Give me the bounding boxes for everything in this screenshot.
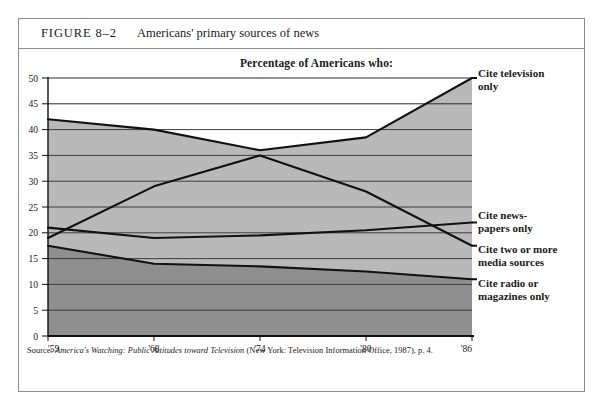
svg-text:'86: '86 [461,343,473,354]
svg-text:25: 25 [28,202,38,213]
svg-text:5: 5 [33,305,38,316]
source-suffix: (New York: Television Information Office… [244,346,433,355]
source-title: America's Watching: Public Attitudes tow… [55,346,244,355]
chart-plot-area: 05101520253035404550'59'68'74'80'86 Cite… [19,19,586,393]
source-prefix: Source: [27,346,55,355]
svg-text:30: 30 [28,176,38,187]
figure-frame: FIGURE 8–2 Americans' primary sources of… [18,18,585,392]
svg-text:10: 10 [28,279,38,290]
svg-text:45: 45 [28,98,38,109]
svg-text:15: 15 [28,253,38,264]
series-label-multiple: Cite two or more media sources [478,243,590,269]
svg-text:20: 20 [28,227,38,238]
source-note: Source: America's Watching: Public Attit… [27,346,433,355]
svg-text:0: 0 [33,331,38,342]
svg-text:50: 50 [28,73,38,84]
series-label-television: Cite television only [478,67,590,93]
svg-text:35: 35 [28,150,38,161]
series-label-radio: Cite radio or magazines only [478,277,590,303]
series-label-newspapers: Cite news- papers only [478,209,590,235]
svg-text:40: 40 [28,124,38,135]
